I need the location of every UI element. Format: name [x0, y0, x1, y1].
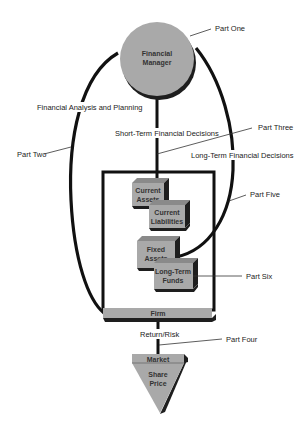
firm-label: Firm	[150, 310, 165, 317]
financial-manager-label-1: Financial	[142, 50, 172, 57]
market-share-price-node: Market Share Price	[132, 354, 188, 414]
current-liabilities-block: Current Liabilities	[149, 200, 190, 231]
market-label: Market	[147, 356, 170, 363]
part-one-label: Part One	[215, 24, 245, 33]
financial-analysis-flow-line	[71, 53, 118, 313]
long-term-funds-label-1: Long-Term	[155, 268, 191, 276]
long-term-decisions-label: Long-Term Financial Decisions	[191, 151, 294, 160]
long-term-funds-block: Long-Term Funds	[154, 258, 198, 292]
financial-manager-label-2: Manager	[143, 59, 172, 67]
fixed-assets-label-1: Fixed	[147, 246, 165, 253]
current-liabilities-label-1: Current	[154, 209, 180, 216]
short-term-decisions-label: Short-Term Financial Decisions	[115, 129, 219, 138]
share-price-label-2: Price	[149, 380, 166, 387]
current-liabilities-label-2: Liabilities	[151, 218, 183, 225]
share-price-label-1: Share	[148, 371, 168, 378]
part-five-leader	[229, 195, 246, 201]
part-two-leader	[44, 147, 71, 154]
current-assets-label-1: Current	[135, 187, 161, 194]
financial-analysis-label: Financial Analysis and Planning	[37, 103, 142, 112]
long-term-funds-label-2: Funds	[163, 277, 184, 284]
part-four-label: Part Four	[226, 335, 258, 344]
part-five-label: Part Five	[250, 190, 280, 199]
firm-bar: Firm	[103, 308, 216, 322]
financial-management-diagram: Financial Manager Current Assets Current…	[0, 0, 303, 428]
part-one-leader	[190, 29, 211, 36]
part-six-label: Part Six	[246, 272, 273, 281]
part-four-leader	[159, 339, 222, 345]
part-two-label: Part Two	[17, 150, 46, 159]
part-three-label: Part Three	[258, 123, 293, 132]
return-risk-label: Return/Risk	[140, 330, 179, 339]
